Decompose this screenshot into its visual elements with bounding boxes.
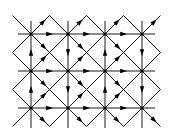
- outer-bottom-diag-a-1: [68, 108, 87, 127]
- arrow-down-r1-c3: [140, 86, 144, 93]
- outer-top-diag-b-1: [87, 16, 106, 35]
- outer-bottom-diag-b-1: [87, 108, 106, 127]
- outer-top-diag-a-2: [105, 16, 124, 35]
- directed-lattice-diagram: [0, 0, 172, 140]
- corner-spoke-br: [142, 108, 161, 127]
- outer-top-diag-a-0: [31, 16, 50, 35]
- arrow-right-r1-c0: [46, 69, 53, 73]
- arrow-right-r0-c2: [120, 32, 127, 36]
- node-r0-c3: [140, 32, 143, 35]
- outer-top-diag-b-2: [124, 16, 143, 35]
- arrow-down-r0-c1: [66, 49, 70, 56]
- outer-right-diag-a-0: [142, 34, 161, 53]
- outer-bottom-diag-a-2: [105, 108, 124, 127]
- arrow-down-r0-c3: [140, 49, 144, 56]
- node-r2-c1: [66, 106, 69, 109]
- outer-right-diag-b-1: [142, 90, 161, 109]
- arrow-up-r0-c0: [29, 49, 33, 56]
- corner-spoke-bl: [13, 108, 32, 127]
- corner-spoke-tr: [142, 16, 161, 35]
- arrow-right-r1-c1: [83, 69, 90, 73]
- outer-bottom-diag-b-0: [50, 108, 69, 127]
- node-r0-c1: [66, 32, 69, 35]
- outer-left-diag-b-0: [13, 53, 32, 72]
- node-r0-c0: [29, 32, 32, 35]
- outer-right-diag-b-0: [142, 53, 161, 72]
- node-r1-c1: [66, 69, 69, 72]
- node-r0-c2: [103, 32, 106, 35]
- outer-bottom-diag-a-0: [31, 108, 50, 127]
- node-r2-c0: [29, 106, 32, 109]
- outer-bottom-diag-b-2: [124, 108, 143, 127]
- outer-left-diag-b-1: [13, 90, 32, 109]
- node-r2-c2: [103, 106, 106, 109]
- arrow-right-r2-c2: [120, 106, 127, 110]
- node-r1-c3: [140, 69, 143, 72]
- outer-left-diag-a-0: [13, 34, 32, 53]
- node-r2-c3: [140, 106, 143, 109]
- arrow-down-r1-c1: [66, 86, 70, 93]
- outer-top-diag-b-0: [50, 16, 69, 35]
- arrow-up-r1-c2: [103, 86, 107, 93]
- outer-right-diag-a-1: [142, 71, 161, 90]
- arrow-right-r0-c0: [46, 32, 53, 36]
- arrow-right-r2-c1: [83, 106, 90, 110]
- outer-left-diag-a-1: [13, 71, 32, 90]
- outer-top-diag-a-1: [68, 16, 87, 35]
- arrow-right-r2-c0: [46, 106, 53, 110]
- arrow-up-r1-c0: [29, 86, 33, 93]
- arrow-right-r1-c2: [120, 69, 127, 73]
- node-r1-c2: [103, 69, 106, 72]
- arrow-up-r0-c2: [103, 49, 107, 56]
- corner-spoke-tl: [13, 16, 32, 35]
- node-r1-c0: [29, 69, 32, 72]
- arrow-right-r0-c1: [83, 32, 90, 36]
